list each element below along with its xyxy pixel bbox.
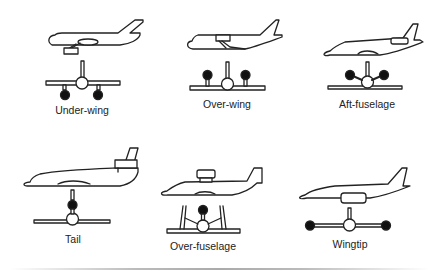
engine-icon: [94, 91, 103, 100]
over-wing-front-view: [190, 62, 265, 90]
label-over-fuselage: Over-fuselage: [170, 240, 236, 252]
engine-icon: [306, 221, 315, 230]
engine-icon: [61, 91, 70, 100]
engine-icon: [199, 206, 208, 215]
engine-icon: [203, 71, 212, 80]
under-wing-front-view: [46, 61, 120, 100]
engine-icon: [382, 221, 391, 230]
aft-fuselage-side-view: [324, 24, 423, 56]
over-fuselage-side-view: [161, 168, 262, 195]
engine-icon: [68, 201, 77, 210]
wingtip-side-view: [300, 168, 410, 203]
wingtip-front-view: [306, 208, 391, 231]
engine-icon: [380, 71, 389, 80]
tail-side-view: [24, 148, 138, 186]
label-aft-fuselage: Aft-fuselage: [339, 98, 395, 110]
engine-icon: [241, 71, 250, 80]
label-over-wing: Over-wing: [203, 98, 251, 110]
label-tail: Tail: [65, 233, 81, 245]
label-wingtip: Wingtip: [332, 238, 367, 250]
under-wing-side-view: [49, 20, 143, 54]
bottom-divider: [10, 268, 429, 270]
over-fuselage-front-view: [167, 206, 240, 234]
label-under-wing: Under-wing: [55, 104, 109, 116]
tail-front-view: [34, 190, 110, 225]
engine-icon: [346, 71, 355, 80]
aft-fuselage-front-view: [328, 62, 402, 89]
over-wing-side-view: [188, 20, 282, 49]
